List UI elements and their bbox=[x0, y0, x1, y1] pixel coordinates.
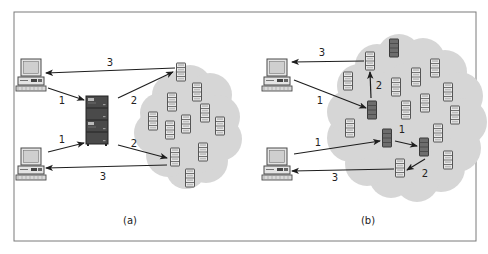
peer-server-icon bbox=[346, 119, 355, 137]
step-label: 3 bbox=[332, 172, 338, 183]
step-label: 1 bbox=[317, 95, 323, 106]
panel-b: 1231123(b) bbox=[262, 34, 487, 226]
step-label: 1 bbox=[59, 134, 65, 145]
peer-server-icon bbox=[431, 59, 440, 77]
peer-server-icon bbox=[216, 117, 225, 135]
client-computer-icon bbox=[16, 148, 46, 180]
peer-server-icon bbox=[193, 83, 202, 101]
message-arrow-step-1: 1 bbox=[48, 134, 84, 152]
peer-server-icon bbox=[344, 72, 353, 90]
panel-caption: (b) bbox=[361, 215, 375, 226]
active-peer-server-icon bbox=[390, 39, 399, 57]
peer-server-icon bbox=[182, 115, 191, 133]
panel-a: 112233(a) bbox=[16, 57, 242, 226]
central-directory-server-icon bbox=[86, 96, 108, 146]
step-label: 2 bbox=[422, 168, 428, 179]
message-arrow-step-3: 3 bbox=[46, 165, 167, 182]
step-label: 3 bbox=[107, 57, 113, 68]
peer-server-icon bbox=[168, 93, 177, 111]
client-computer-icon bbox=[262, 59, 292, 91]
peer-server-icon bbox=[392, 78, 401, 96]
step-label: 2 bbox=[131, 95, 137, 106]
p2p-architecture-figure: 112233(a)1231123(b) bbox=[0, 0, 488, 254]
peer-server-icon bbox=[396, 159, 405, 177]
peer-server-icon bbox=[434, 124, 443, 142]
peer-server-icon bbox=[402, 101, 411, 119]
peer-server-icon bbox=[177, 63, 186, 81]
message-arrow-step-1: 1 bbox=[48, 88, 84, 106]
message-arrow-step-3: 3 bbox=[292, 47, 364, 62]
peer-server-icon bbox=[451, 106, 460, 124]
peer-server-icon bbox=[444, 151, 453, 169]
step-label: 2 bbox=[376, 80, 382, 91]
peer-server-icon bbox=[444, 83, 453, 101]
active-peer-server-icon bbox=[420, 138, 429, 156]
peer-server-icon bbox=[171, 148, 180, 166]
peer-server-icon bbox=[166, 121, 175, 139]
step-label: 3 bbox=[100, 171, 106, 182]
client-computer-icon bbox=[16, 59, 46, 91]
figure-panels: 112233(a)1231123(b) bbox=[16, 34, 487, 226]
active-peer-server-icon bbox=[368, 101, 377, 119]
step-label: 3 bbox=[319, 47, 325, 58]
active-peer-server-icon bbox=[383, 129, 392, 147]
peer-server-icon bbox=[201, 104, 210, 122]
message-arrow-step-3: 3 bbox=[46, 57, 175, 73]
peer-server-icon bbox=[366, 52, 375, 70]
step-label: 1 bbox=[59, 95, 65, 106]
peer-server-icon bbox=[149, 112, 158, 130]
panel-caption: (a) bbox=[123, 215, 137, 226]
peer-server-icon bbox=[421, 94, 430, 112]
peer-server-icon bbox=[199, 143, 208, 161]
peer-server-icon bbox=[412, 68, 421, 86]
step-label: 1 bbox=[399, 124, 405, 135]
peer-server-icon bbox=[186, 169, 195, 187]
step-label: 2 bbox=[131, 138, 137, 149]
client-computer-icon bbox=[262, 148, 292, 180]
step-label: 1 bbox=[315, 137, 321, 148]
